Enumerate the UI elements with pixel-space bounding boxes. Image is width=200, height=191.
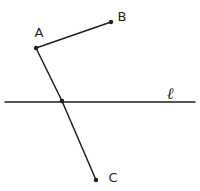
point-label-B: B [118, 9, 127, 24]
segment-AC [36, 48, 96, 180]
point-dot-B [109, 20, 113, 24]
segment-AB [36, 22, 111, 48]
point-label-A: A [35, 25, 44, 40]
geometry-diagram: ℓABC [0, 0, 200, 191]
point-dot-A [34, 46, 38, 50]
point-label-C: C [108, 170, 117, 185]
point-dot-intersection [60, 99, 64, 103]
diagram-svg: ℓABC [0, 0, 200, 191]
point-dot-C [94, 178, 98, 182]
line-label-l: ℓ [167, 84, 174, 103]
